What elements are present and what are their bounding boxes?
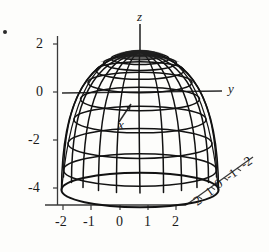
z-tick-label: 0 — [36, 85, 43, 99]
axis-label-y: y — [228, 82, 234, 95]
x-tick-label: -1 — [83, 215, 95, 229]
paraboloid-mesh — [62, 51, 219, 207]
z-tick-label: 2 — [36, 37, 43, 51]
z-tick-label: -2 — [28, 133, 40, 147]
z-tick-label: -4 — [28, 181, 40, 195]
axis-label-z: z — [137, 10, 142, 23]
x-tick-label: -2 — [55, 215, 67, 229]
z-axis-ticks — [53, 44, 58, 188]
x-tick-label: 0 — [116, 215, 123, 229]
x-tick-label: 2 — [172, 215, 179, 229]
x-tick-label: 1 — [144, 215, 151, 229]
axis-label-x: x — [118, 118, 124, 131]
